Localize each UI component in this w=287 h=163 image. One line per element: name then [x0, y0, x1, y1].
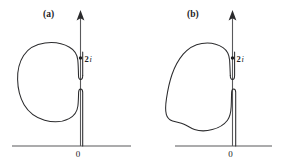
origin-label-a: 0 — [76, 149, 81, 159]
panel-label-b: (b) — [187, 9, 199, 20]
figure-container: (a) 2 i 0 (b) 2 i 0 — [0, 0, 287, 163]
origin-label-b: 0 — [228, 149, 233, 159]
panel-a: (a) 2 i 0 — [0, 0, 143, 163]
branch-point-label-number-b: 2 — [237, 54, 241, 64]
branch-point-dot-a — [79, 56, 82, 59]
panel-label-a: (a) — [43, 9, 54, 20]
contour-curve-b — [166, 43, 236, 146]
branch-point-label-number-a: 2 — [85, 54, 89, 64]
panel-b: (b) 2 i 0 — [143, 0, 287, 163]
branch-point-dot-b — [231, 56, 234, 59]
contour-curve-a — [18, 43, 83, 146]
branch-point-label-unit-a: i — [90, 54, 93, 64]
branch-point-label-unit-b: i — [242, 54, 245, 64]
